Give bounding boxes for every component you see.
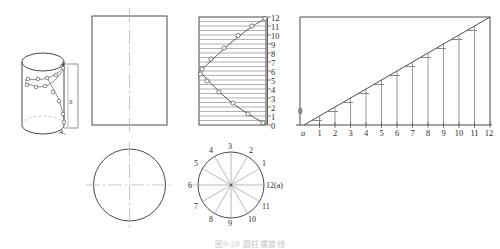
helix-point (25, 83, 29, 87)
clock-label-11: 11 (262, 202, 270, 211)
sine-point (231, 101, 235, 105)
clock-label-5: 5 (194, 159, 198, 168)
sine-point (263, 16, 267, 20)
clock-spoke-1 (231, 169, 260, 186)
panel-top-view (86, 142, 173, 228)
sine-point (222, 46, 226, 50)
figure-canvas: A S A₁ (0, 0, 500, 249)
clock-label-4: 4 (209, 146, 213, 155)
helix-point (62, 120, 66, 124)
sine-hatch-lines (199, 22, 266, 121)
helix-point (34, 85, 38, 89)
helix-point (51, 90, 55, 94)
cylinder-top-ellipse (22, 53, 64, 71)
clock-spoke-10 (231, 185, 248, 214)
panel-front-view (92, 8, 167, 133)
sine-point (217, 90, 221, 94)
development-tick-label: 4 (364, 128, 369, 138)
clock-spoke-2 (231, 156, 248, 185)
panel-sine: 12 11 10 9 8 7 6 5 4 3 2 1 0 (198, 13, 279, 131)
sine-point (236, 33, 240, 37)
panel-cylinder: A S A₁ (22, 53, 78, 136)
development-tick-labels: 1 2 3 4 5 6 7 8 9 10 11 12 (317, 128, 493, 138)
clock-spoke-7 (202, 185, 231, 202)
sine-point (209, 57, 213, 61)
cylinder-bottom-front-arc (22, 125, 64, 134)
helix-point (26, 77, 30, 81)
figure-caption: 图9-20 圆柱螺旋线 (0, 238, 500, 249)
sine-scale-labels: 12 11 10 9 8 7 6 5 4 3 2 1 0 (271, 13, 280, 131)
panel-development: 0 a 1 2 3 4 5 6 7 8 9 10 11 12 (296, 17, 493, 138)
development-origin-label: 0 (298, 106, 303, 116)
clock-spoke-5 (202, 169, 231, 186)
label-point-a1: A₁ (58, 128, 66, 136)
development-tick-label: 2 (333, 128, 337, 138)
sine-point (250, 24, 254, 28)
clock-label-10: 10 (248, 215, 256, 224)
development-tick-label: 11 (470, 128, 478, 138)
label-point-a: A (59, 60, 65, 68)
clock-center-dot (230, 184, 232, 186)
sine-point (246, 112, 250, 116)
sine-lower-branch (201, 73, 266, 124)
clock-label-2: 2 (249, 146, 253, 155)
helix-point (43, 84, 47, 88)
clock-label-1: 1 (262, 159, 266, 168)
sine-scale-label: 0 (271, 121, 275, 131)
development-tick-label: 3 (348, 128, 352, 138)
technical-drawing: A S A₁ (0, 0, 500, 249)
clock-label-3: 3 (228, 142, 232, 151)
development-tick-label: 7 (410, 128, 414, 138)
helix-point (36, 77, 40, 81)
sine-point (261, 121, 265, 125)
sine-point (200, 67, 204, 71)
development-tick-label: 1 (317, 128, 321, 138)
clock-label-6: 6 (188, 181, 192, 190)
clock-spoke-4 (215, 156, 232, 185)
clock-spoke-8 (215, 185, 232, 214)
clock-label-7: 7 (194, 202, 198, 211)
development-tick-label: 5 (379, 128, 383, 138)
development-tick-label: 10 (455, 128, 464, 138)
cylinder-bottom-back-arc (22, 116, 64, 125)
helix-point (57, 99, 61, 103)
panel-clock: 1 2 3 4 5 6 7 8 9 10 11 12(a) (188, 142, 283, 228)
sine-point (198, 72, 202, 76)
development-tick-label: 9 (441, 128, 445, 138)
development-tick-label: 8 (426, 128, 430, 138)
development-start-label: a (301, 128, 305, 138)
helix-point (61, 112, 65, 116)
clock-label-9: 9 (228, 219, 232, 228)
clock-spoke-11 (231, 185, 260, 202)
development-tick-label: 6 (395, 128, 399, 138)
clock-label-12: 12(a) (266, 181, 283, 190)
helix-point (54, 73, 58, 77)
helix-point (45, 76, 49, 80)
label-point-s: S (69, 98, 73, 106)
development-tick-label: 12 (485, 128, 494, 138)
clock-label-8: 8 (209, 215, 213, 224)
sine-point (205, 79, 209, 83)
